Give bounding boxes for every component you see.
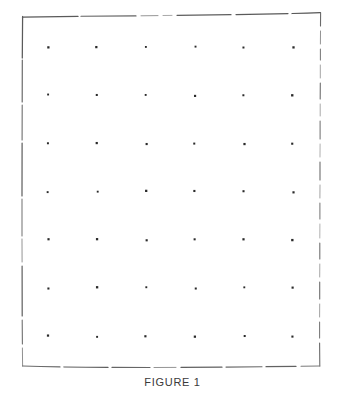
grid-dot	[144, 335, 146, 337]
grid-dot	[95, 46, 97, 48]
grid-dot	[146, 239, 148, 241]
grid-dot	[193, 190, 195, 192]
grid-dot	[242, 94, 244, 96]
grid-dot	[242, 47, 244, 49]
grid-dot	[96, 94, 98, 96]
grid-dot	[195, 46, 197, 48]
grid-dot	[97, 191, 99, 193]
grid-dot	[242, 190, 244, 192]
figure-drawing	[0, 0, 345, 403]
grid-dot	[145, 286, 147, 288]
grid-dot	[47, 94, 49, 96]
border-right-edge	[320, 13, 321, 366]
grid-dot	[145, 94, 147, 96]
border-left-edge	[22, 17, 23, 367]
grid-dot	[242, 238, 244, 240]
grid-dot	[47, 46, 49, 48]
grid-dot	[291, 143, 293, 145]
grid-dot	[47, 191, 49, 193]
grid-dot	[194, 238, 196, 240]
grid-dot	[96, 336, 98, 338]
figure-caption: FIGURE 1	[0, 376, 345, 388]
grid-dot	[194, 336, 196, 338]
grid-dot	[146, 143, 148, 145]
grid-dot	[195, 288, 197, 290]
border-bottom-edge	[23, 366, 320, 368]
border-top-edge	[23, 13, 321, 18]
dot-grid	[47, 46, 295, 338]
grid-dot	[47, 238, 49, 240]
grid-dot	[292, 191, 294, 193]
grid-dot	[96, 286, 98, 288]
grid-dot	[243, 286, 245, 288]
figure-page: FIGURE 1	[0, 0, 345, 403]
grid-dot	[291, 94, 293, 96]
grid-dot	[47, 142, 49, 144]
grid-dot	[47, 287, 49, 289]
grid-dot	[145, 46, 147, 48]
grid-dot	[292, 287, 294, 289]
figure-border	[22, 13, 321, 368]
grid-dot	[193, 143, 195, 145]
grid-dot	[145, 190, 147, 192]
grid-dot	[291, 239, 293, 241]
grid-dot	[47, 334, 49, 336]
grid-dot	[292, 46, 294, 48]
grid-dot	[243, 143, 245, 145]
grid-dot	[194, 95, 196, 97]
grid-dot	[244, 335, 246, 337]
grid-dot	[96, 142, 98, 144]
grid-dot	[291, 336, 293, 338]
grid-dot	[96, 238, 98, 240]
